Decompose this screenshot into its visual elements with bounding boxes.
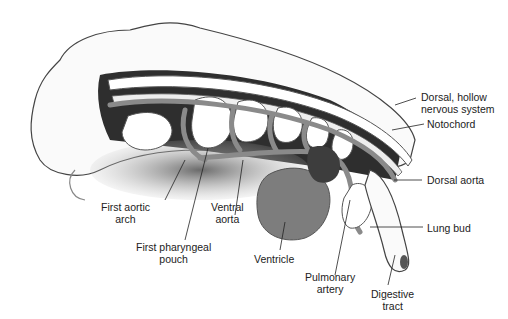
label-line: Ventral [211,201,244,213]
label-line: tract [371,300,414,312]
label-first-pharyngeal-pouch: First pharyngeal pouch [136,241,211,265]
embryo-diagram: Dorsal, hollow nervous system Notochord … [0,0,508,319]
label-pulmonary-artery: Pulmonary artery [305,271,355,295]
label-line: Digestive [371,288,414,300]
label-first-aortic-arch: First aortic arch [101,201,150,225]
label-line: Pulmonary [305,271,355,283]
label-line: nervous system [421,103,495,115]
embryo-illustration [0,0,508,319]
label-lung-bud: Lung bud [427,222,471,234]
label-line: First pharyngeal [136,241,211,253]
label-line: Ventricle [254,253,294,265]
label-line: pouch [136,253,211,265]
label-line: arch [101,213,150,225]
label-ventral-aorta: Ventral aorta [211,201,244,225]
label-line: artery [305,283,355,295]
label-digestive-tract: Digestive tract [371,288,414,312]
label-ventricle: Ventricle [254,253,294,265]
label-line: Notochord [427,118,475,130]
label-dorsal-hollow-nervous-system: Dorsal, hollow nervous system [421,91,495,115]
label-line: aorta [211,213,244,225]
label-line: Dorsal, hollow [421,91,495,103]
label-line: Dorsal aorta [427,174,484,186]
label-line: First aortic [101,201,150,213]
label-line: Lung bud [427,222,471,234]
label-notochord: Notochord [427,118,475,130]
label-dorsal-aorta: Dorsal aorta [427,174,484,186]
